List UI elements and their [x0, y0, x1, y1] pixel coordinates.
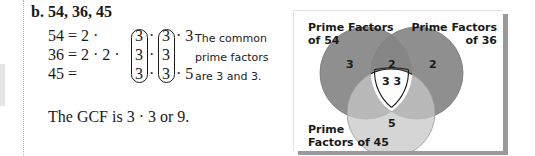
region-45-only: 5 — [388, 117, 396, 130]
region-54-and-36: 2 — [388, 58, 396, 71]
venn-diagram-panel: Prime Factors of 54 Prime Factors of 36 … — [293, 10, 503, 151]
multiply-dot: · — [149, 65, 154, 83]
label-set-54: Prime Factors of 54 — [308, 21, 394, 47]
equation-lhs: 36 = 2 · 2 · — [48, 46, 120, 64]
note-line-2: prime factors — [195, 51, 269, 64]
note-line-1: The common — [195, 32, 267, 45]
region-all-three: 3 3 — [382, 75, 401, 88]
equation-tail: · 3 — [176, 27, 193, 45]
common-factor-oval-1 — [131, 29, 148, 83]
multiply-dot: · — [149, 46, 154, 64]
region-54-only: 3 — [346, 58, 354, 71]
multiply-dot: · — [149, 27, 154, 45]
note-line-3: are 3 and 3. — [195, 70, 261, 83]
region-36-only: 2 — [429, 58, 437, 71]
label-set-36: Prime Factors of 36 — [411, 21, 497, 47]
dotted-margin-rule — [23, 0, 24, 156]
example-heading: b. 54, 36, 45 — [31, 3, 112, 21]
gcf-conclusion: The GCF is 3 · 3 or 9. — [48, 108, 189, 126]
equation-lhs: 54 = 2 · — [48, 27, 98, 45]
margin-block — [0, 64, 5, 106]
common-factor-oval-2 — [158, 29, 175, 83]
label-set-45: Prime Factors of 45 — [308, 123, 389, 149]
equation-lhs: 45 = — [48, 65, 77, 83]
equation-tail: · 5 — [176, 65, 193, 83]
